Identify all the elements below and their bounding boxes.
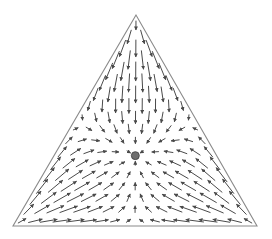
vector-arrow xyxy=(214,192,229,203)
vector-arrow xyxy=(174,194,189,202)
vector-arrow xyxy=(120,137,124,143)
vector-arrow xyxy=(147,137,151,143)
vector-arrow xyxy=(119,162,125,165)
vector-field-arrows xyxy=(18,21,252,224)
vector-arrow xyxy=(164,151,173,152)
vector-arrow xyxy=(41,192,56,203)
vector-arrow xyxy=(168,100,169,113)
simplex-vector-field-chart xyxy=(0,0,272,239)
vector-arrow xyxy=(208,180,223,192)
vector-arrow xyxy=(96,194,109,201)
vector-arrow xyxy=(177,150,188,154)
vector-arrow xyxy=(190,148,201,155)
vector-arrow xyxy=(108,112,110,123)
vector-arrow xyxy=(140,194,143,202)
vector-arrow xyxy=(102,100,103,113)
vector-arrow xyxy=(68,170,82,179)
vector-arrow xyxy=(103,183,113,190)
vector-arrow xyxy=(145,206,152,212)
vector-arrow xyxy=(187,194,204,203)
vector-arrow xyxy=(141,124,142,134)
vector-arrow xyxy=(96,172,107,178)
vector-arrow xyxy=(151,172,159,178)
vector-arrow xyxy=(140,172,143,178)
vector-arrow xyxy=(198,137,205,144)
vector-arrow xyxy=(111,194,120,201)
vector-arrow xyxy=(182,160,194,167)
vector-arrow xyxy=(122,86,123,103)
vector-arrow xyxy=(156,206,167,212)
vector-arrow xyxy=(118,206,125,212)
vector-arrow xyxy=(61,181,77,191)
vector-arrow xyxy=(121,62,124,81)
vector-arrow xyxy=(30,191,41,205)
vector-arrow xyxy=(126,219,131,222)
vector-arrow xyxy=(89,182,102,190)
vector-arrow xyxy=(168,207,183,213)
vector-arrow xyxy=(86,127,92,131)
vector-arrow xyxy=(141,50,143,69)
vector-arrow xyxy=(166,75,172,90)
vector-arrow xyxy=(166,125,171,132)
vector-arrow xyxy=(202,169,216,181)
vector-arrow xyxy=(142,73,143,92)
vector-arrow xyxy=(181,101,184,111)
stable-rest-point xyxy=(131,152,139,160)
vector-arrow xyxy=(97,151,106,152)
vector-arrow xyxy=(184,139,193,142)
vector-arrow xyxy=(161,112,163,123)
vector-arrow xyxy=(193,128,198,130)
vector-arrow xyxy=(82,171,95,179)
vector-arrow xyxy=(67,194,84,202)
vector-arrow xyxy=(174,113,176,122)
vector-arrow xyxy=(173,88,178,101)
vector-arrow xyxy=(43,168,54,182)
vector-arrow xyxy=(100,125,105,132)
vector-arrow xyxy=(161,87,163,102)
vector-arrow xyxy=(105,138,112,142)
vector-arrow xyxy=(128,73,129,92)
vector-arrow xyxy=(175,171,188,179)
vector-arrow xyxy=(63,158,75,168)
vector-arrow xyxy=(114,74,117,92)
vector-arrow xyxy=(58,147,67,158)
vector-arrow xyxy=(104,161,113,165)
vector-arrow xyxy=(18,218,26,223)
vector-arrow xyxy=(110,220,120,222)
vector-arrow xyxy=(196,158,208,168)
vector-arrow xyxy=(99,75,105,90)
vector-arrow xyxy=(103,207,114,213)
vector-arrow xyxy=(73,128,78,130)
vector-arrow xyxy=(223,179,234,194)
vector-arrow xyxy=(157,183,167,190)
vector-arrow xyxy=(48,180,63,192)
vector-arrow xyxy=(76,160,89,167)
vector-arrow xyxy=(194,181,210,191)
vector-arrow xyxy=(108,87,110,102)
vector-arrow xyxy=(154,74,157,92)
vector-arrow xyxy=(157,161,166,165)
vector-arrow xyxy=(151,194,160,201)
vector-arrow xyxy=(141,30,145,44)
vector-arrow xyxy=(148,111,149,123)
vector-arrow xyxy=(147,62,150,81)
vector-arrow xyxy=(73,206,90,212)
vector-arrow xyxy=(82,114,83,120)
vector-arrow xyxy=(146,162,152,165)
vector-arrow xyxy=(36,179,48,194)
vector-arrow xyxy=(127,194,130,202)
vector-arrow xyxy=(229,191,240,205)
vector-arrow xyxy=(88,101,91,111)
vector-arrow xyxy=(90,161,101,166)
vector-arrow xyxy=(78,139,87,142)
vector-arrow xyxy=(146,183,152,190)
vector-arrow xyxy=(74,182,89,191)
vector-arrow xyxy=(162,220,175,222)
vector-arrow xyxy=(179,127,185,131)
vector-arrow xyxy=(111,172,119,178)
vector-arrow xyxy=(140,151,144,153)
vector-arrow xyxy=(127,151,131,153)
vector-arrow xyxy=(128,50,130,69)
vector-arrow xyxy=(204,147,213,158)
vector-arrow xyxy=(171,140,180,141)
